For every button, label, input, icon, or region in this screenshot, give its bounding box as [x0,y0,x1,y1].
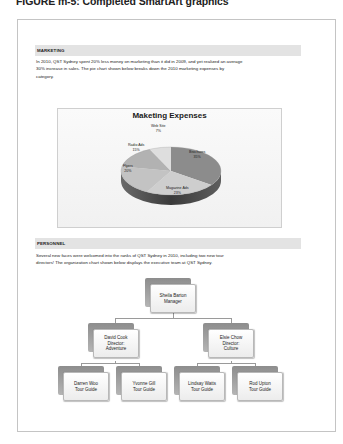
label-magazine-ads: Magazine Ads23% [166,186,189,195]
personnel-paragraph: Several new faces were welcomed into the… [36,252,298,267]
org-node-manager[interactable]: Sheila Barton Manager [145,278,191,308]
label-brochures: Brochures35% [189,150,205,159]
label-radio-ads: Radio Ads15% [128,143,144,152]
connector [115,318,232,319]
marketing-paragraph-line: category. [36,73,298,80]
node-title: Adventure [106,346,127,352]
personnel-paragraph-line: Several new faces were welcomed into the… [36,252,298,259]
marketing-heading: MARKETING [35,45,301,56]
marketing-paragraph-line: In 2010, QST Sydney spent 20% less money… [36,58,298,65]
personnel-heading: PERSONNEL [35,238,301,249]
org-node-guide[interactable]: Rod Upton Tour Guide [232,366,278,396]
node-title: Tour Guide [75,387,97,393]
node-title: Tour Guide [191,387,213,393]
label-web-site: Web Site7% [151,124,166,133]
node-title: Tour Guide [249,387,271,393]
marketing-paragraph: In 2010, QST Sydney spent 20% less money… [36,58,298,80]
node-title: Manager [164,299,182,305]
pie-chart-graphic [58,109,283,229]
personnel-paragraph-line: directors! The organization chart shown … [36,259,298,266]
org-node-guide[interactable]: Lindsay Watts Tour Guide [174,366,220,396]
org-node-guide[interactable]: Darren Woo Tour Guide [58,366,104,396]
node-title: Culture [224,346,239,352]
marketing-paragraph-line: 30% increase in sales. The pie chart sho… [36,65,298,72]
node-title: Tour Guide [133,387,155,393]
connector [81,363,140,364]
org-node-guide[interactable]: Yvonne Gill Tour Guide [116,366,162,396]
figure-caption: FIGURE m-5: Completed SmartArt graphics [16,0,229,7]
org-node-director-culture[interactable]: Elsie Chow Director: Culture [203,323,249,353]
pie-chart[interactable]: Maketing Expenses Web Site7% Radio Ads15… [57,108,282,228]
connector [197,363,256,364]
org-node-director-adventure[interactable]: David Cook Director: Adventure [88,323,134,353]
label-flyers: Flyers20% [123,164,133,173]
